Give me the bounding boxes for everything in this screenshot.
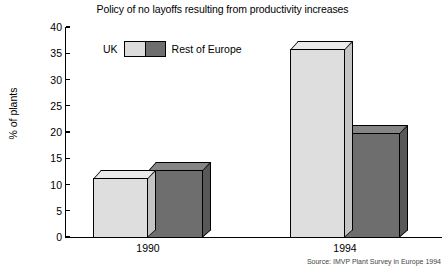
y-axis-tick-label: 30 — [22, 75, 62, 86]
legend-label-rest-of-europe: Rest of Europe — [172, 44, 242, 55]
legend-swatch-rest-of-europe — [145, 42, 165, 56]
legend-label-uk: UK — [103, 44, 118, 55]
chart-title: Policy of no layoffs resulting from prod… — [0, 3, 445, 15]
bar-front-face — [345, 133, 400, 238]
bar-side-face — [399, 125, 408, 238]
y-axis-tick-label: 5 — [22, 206, 62, 217]
bar-front-face — [93, 178, 148, 238]
x-axis-label-1994: 1994 — [285, 243, 405, 254]
y-axis-tick-label: 0 — [22, 232, 62, 243]
chart-legend: UK Rest of Europe — [103, 40, 242, 58]
bar-uk-1994 — [290, 49, 345, 238]
legend-swatch-uk — [125, 42, 145, 56]
bar-front-face — [290, 49, 345, 238]
plot-area — [65, 27, 440, 238]
bar-side-face — [344, 41, 353, 238]
bar-rest-of-europe-1994 — [345, 133, 400, 238]
y-axis-tick-label: 35 — [22, 48, 62, 59]
bar-uk-1990 — [93, 178, 148, 238]
y-axis-tick-label: 15 — [22, 153, 62, 164]
source-note: Source: IMVP Plant Survey in Europe 1994 — [0, 258, 441, 266]
y-axis-title: % of plants — [8, 79, 19, 149]
legend-swatches — [124, 41, 166, 57]
y-axis-tick-label: 40 — [22, 22, 62, 33]
bar-rest-of-europe-1990 — [148, 170, 203, 238]
y-axis-tick-label: 10 — [22, 180, 62, 191]
x-axis-label-1990: 1990 — [88, 243, 208, 254]
bar-front-face — [148, 170, 203, 238]
bar-side-face — [147, 170, 156, 238]
y-axis-tick-label: 25 — [22, 101, 62, 112]
y-axis-tick-label: 20 — [22, 127, 62, 138]
bar-side-face — [202, 162, 211, 238]
